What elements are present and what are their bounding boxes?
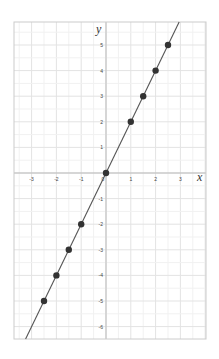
y-tick-label: -1 bbox=[99, 196, 104, 202]
x-tick-label: 1 bbox=[129, 176, 132, 182]
data-point bbox=[103, 170, 109, 176]
data-point bbox=[140, 93, 146, 99]
y-tick-label: -5 bbox=[99, 298, 104, 304]
y-tick-label: -4 bbox=[99, 272, 104, 278]
plot-background bbox=[14, 22, 206, 339]
y-tick-label: -3 bbox=[99, 247, 104, 253]
data-point bbox=[152, 67, 158, 73]
y-axis-label: y bbox=[95, 22, 102, 36]
y-tick-label: 1 bbox=[100, 144, 103, 150]
x-tick-label: -1 bbox=[79, 176, 84, 182]
y-tick-label: 3 bbox=[100, 93, 103, 99]
data-point bbox=[41, 298, 47, 304]
x-tick-label: 3 bbox=[179, 176, 182, 182]
y-tick-label: 2 bbox=[100, 119, 103, 125]
chart: -3-2-10123-6-5-4-3-2-112345 x y bbox=[0, 0, 219, 359]
data-point bbox=[78, 221, 84, 227]
data-point bbox=[165, 42, 171, 48]
y-tick-label: 4 bbox=[100, 68, 103, 74]
y-tick-label: 5 bbox=[100, 42, 103, 48]
data-point bbox=[128, 119, 134, 125]
y-tick-label: -6 bbox=[99, 324, 104, 330]
x-axis-label: x bbox=[196, 170, 203, 184]
x-tick-label: -3 bbox=[29, 176, 34, 182]
data-point bbox=[53, 272, 59, 278]
y-tick-label: -2 bbox=[99, 221, 104, 227]
x-tick-label: 2 bbox=[154, 176, 157, 182]
x-tick-label: -2 bbox=[54, 176, 59, 182]
data-point bbox=[66, 247, 72, 253]
